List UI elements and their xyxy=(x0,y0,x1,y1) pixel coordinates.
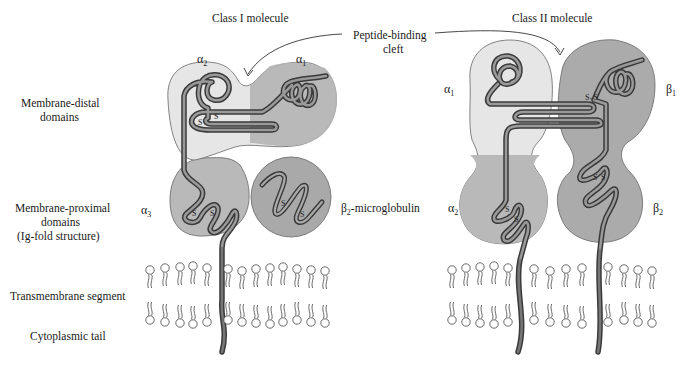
disulfide-label: S xyxy=(593,173,597,182)
row-label-proximal-3: (Ig-fold structure) xyxy=(17,229,100,243)
mhc-diagram: S S S S S S S–S S xyxy=(0,0,682,370)
disulfide-label: S–S xyxy=(585,93,598,102)
row-label-proximal-1: Membrane-proximal xyxy=(15,201,110,215)
disulfide-label: S xyxy=(281,199,285,208)
cleft-label-line2: cleft xyxy=(383,42,403,56)
class2-title: Class II molecule xyxy=(512,11,592,25)
disulfide-label: S xyxy=(300,210,304,219)
cleft-label-line1: Peptide-binding xyxy=(353,28,426,42)
class1-b2m-label: β2-microglobulin xyxy=(341,201,420,220)
class1-alpha3-label: α3 xyxy=(141,203,151,222)
class2-molecule: S–S S S S S xyxy=(460,40,655,352)
disulfide-label: S xyxy=(210,209,214,218)
disulfide-label: S xyxy=(198,118,202,127)
row-label-proximal-2: domains xyxy=(41,215,80,229)
disulfide-label: S xyxy=(514,215,518,224)
class1-molecule: S S S S S S xyxy=(168,62,337,352)
row-label-transmembrane: Transmembrane segment xyxy=(10,289,126,303)
class2-alpha2-label: α2 xyxy=(448,201,458,220)
disulfide-label: S xyxy=(601,173,605,182)
row-label-distal-1: Membrane-distal xyxy=(21,96,100,110)
disulfide-label: S xyxy=(505,205,509,214)
row-label-distal-2: domains xyxy=(40,110,79,124)
disulfide-label: S xyxy=(214,112,218,121)
row-label-cytoplasmic: Cytoplasmic tail xyxy=(30,329,106,343)
lipid-bilayer-class1 xyxy=(146,262,329,328)
class2-beta1-label: β1 xyxy=(666,82,676,101)
class2-beta2-label: β2 xyxy=(653,201,663,220)
class2-alpha1-label: α1 xyxy=(444,82,454,101)
class1-alpha1-label: α1 xyxy=(296,52,306,71)
lipid-bilayer-class2 xyxy=(448,262,656,328)
class1-alpha2-label: α2 xyxy=(197,52,207,71)
class1-title: Class I molecule xyxy=(212,11,289,25)
disulfide-label: S xyxy=(192,209,196,218)
